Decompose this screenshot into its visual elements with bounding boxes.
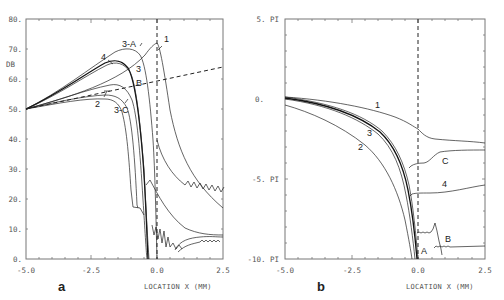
y-tick-label: 20.	[8, 195, 22, 204]
x-axis-a: -5.0 -2.5 0.0 2.5 LOCATION X (MM) a	[17, 266, 230, 294]
x-tick-label: -5.0	[276, 266, 295, 275]
figure: 80. 70. 60. 50. 40. 30. 20. 10. 0. DB -5…	[0, 0, 504, 300]
y-axis-title: DB	[6, 60, 16, 69]
panel-label-a: a	[58, 279, 66, 294]
curve-label: 1	[164, 34, 169, 44]
panel-b: 5. PI 0. -5. PI -10. PI -5.0 -2.5 0.0 2.…	[247, 15, 491, 294]
curve-label: 3-C	[114, 105, 129, 115]
curve-tail-high	[157, 140, 224, 192]
x-tick-label: -2.5	[82, 266, 100, 275]
y-axis-b: 5. PI 0. -5. PI -10. PI	[247, 15, 485, 264]
curve-label: 2	[358, 142, 363, 152]
x-tick-label: 2.5	[478, 266, 492, 275]
y-ticks	[285, 35, 485, 243]
curve-3b	[26, 85, 147, 259]
curve-label: C	[442, 156, 449, 166]
curve-label: B	[445, 234, 451, 244]
y-tick-label: -10. PI	[247, 255, 279, 264]
y-tick-label: 5. PI	[256, 15, 279, 24]
curve-labels-a: 1 3-A 4 3 B 2 3-C	[95, 34, 169, 115]
x-tick-label: 0.0	[411, 266, 425, 275]
plot-frame-a	[26, 19, 223, 259]
y-tick-label: 70.	[8, 45, 22, 54]
y-tick-label: 80.	[8, 15, 22, 24]
curve-label: 2	[95, 99, 100, 109]
curve-label: 4	[101, 52, 106, 62]
y-tick-label: 50.	[8, 105, 22, 114]
curve-3c	[26, 99, 144, 215]
y-tick-label: 10.	[8, 225, 22, 234]
x-tick-label: -2.5	[343, 266, 361, 275]
y-tick-label: -5. PI	[252, 175, 279, 184]
curve-label: A	[421, 246, 427, 256]
y-tick-label: 40.	[8, 135, 22, 144]
curve-tail-low-osc	[178, 240, 220, 252]
curves-a	[26, 43, 224, 259]
curve-label: 4	[442, 179, 447, 189]
y-tick-label: 0.	[13, 255, 22, 264]
curve-b	[434, 246, 485, 248]
x-axis-title: LOCATION X (MM)	[406, 283, 474, 291]
y-ticks	[26, 49, 223, 229]
y-tick-label: 0.	[255, 95, 264, 104]
x-tick-label: 2.5	[216, 266, 230, 275]
curve-4	[410, 185, 485, 196]
curve-label: 1	[375, 100, 380, 110]
curve-3-alt	[285, 97, 418, 259]
curve-2	[285, 105, 412, 259]
curve-4	[26, 61, 148, 259]
curve-label: 3	[367, 128, 372, 138]
y-tick-label: 60.	[8, 75, 22, 84]
x-tick-label: 0.0	[150, 266, 164, 275]
curves-b	[285, 97, 485, 259]
x-axis-b: -5.0 -2.5 0.0 2.5 LOCATION X (MM) b	[276, 266, 492, 294]
plot-frame-b	[285, 19, 485, 259]
curve-label: 3	[136, 64, 141, 74]
curve-3	[285, 98, 417, 259]
curve-label: B	[136, 78, 142, 88]
curve-label: 3-A	[122, 39, 136, 49]
panel-label-b: b	[317, 279, 325, 294]
x-ticks-b	[298, 19, 472, 259]
label-leader-lines	[104, 43, 162, 103]
x-axis-title: LOCATION X (MM)	[144, 283, 212, 291]
panel-a: 80. 70. 60. 50. 40. 30. 20. 10. 0. DB -5…	[6, 15, 230, 294]
y-tick-label: 30.	[8, 165, 22, 174]
curve-3	[26, 63, 149, 259]
x-tick-label: -5.0	[17, 266, 36, 275]
curve-3-alt2	[285, 99, 415, 259]
x-ticks-a	[39, 19, 210, 259]
curve-tail-mid	[146, 180, 223, 235]
